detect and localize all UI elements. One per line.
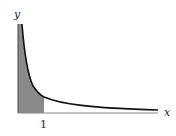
graph: y x 1	[0, 0, 176, 136]
shaded-region	[18, 24, 44, 113]
x-axis-label: x	[164, 106, 171, 119]
y-axis-label: y	[13, 8, 21, 21]
tick-label-1: 1	[40, 118, 47, 131]
